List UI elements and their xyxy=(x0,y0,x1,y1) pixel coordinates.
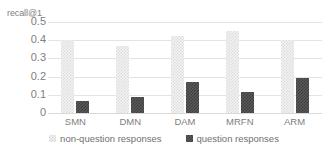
bar xyxy=(241,92,254,113)
y-axis-tick-label: 0.3 xyxy=(6,52,46,63)
y-axis-tick-label: 0 xyxy=(6,107,46,118)
bar xyxy=(281,40,294,113)
y-axis-tick-label: 0.5 xyxy=(6,16,46,27)
bar-group xyxy=(158,22,213,113)
bar xyxy=(186,82,199,113)
x-axis-tick-label: DAM xyxy=(158,116,213,128)
bar xyxy=(296,78,309,113)
legend-entry[interactable]: question responses xyxy=(186,133,279,144)
chart-legend: non-question responsesquestion responses xyxy=(0,133,328,144)
bar-group xyxy=(48,22,103,113)
x-axis-tick-labels: SMNDMNDAMMRFNARM xyxy=(48,116,322,128)
legend-entry[interactable]: non-question responses xyxy=(49,133,161,144)
y-axis-tick-label: 0.1 xyxy=(6,89,46,100)
x-axis-tick-label: MRFN xyxy=(212,116,267,128)
y-axis-tick-label: 0.2 xyxy=(6,71,46,82)
bar-group xyxy=(212,22,267,113)
bar xyxy=(61,40,74,113)
bar xyxy=(76,101,89,113)
legend-swatch-question-icon xyxy=(186,135,193,142)
bar xyxy=(131,97,144,113)
bar xyxy=(226,31,239,113)
x-axis-tick-label: SMN xyxy=(48,116,103,128)
y-axis-tick-label: 0.4 xyxy=(6,34,46,45)
legend-label: non-question responses xyxy=(60,133,161,144)
legend-label: question responses xyxy=(197,133,279,144)
bar-group xyxy=(103,22,158,113)
recall-bar-chart: recall@1 0.50.40.30.20.10 SMNDMNDAMMRFNA… xyxy=(0,0,328,153)
bar-group xyxy=(267,22,322,113)
gridline xyxy=(48,113,322,114)
x-axis-tick-label: ARM xyxy=(267,116,322,128)
x-axis-tick-label: DMN xyxy=(103,116,158,128)
bar xyxy=(116,46,129,113)
bar-groups xyxy=(48,22,322,113)
bar xyxy=(171,36,184,113)
legend-swatch-non-question-icon xyxy=(49,135,56,142)
